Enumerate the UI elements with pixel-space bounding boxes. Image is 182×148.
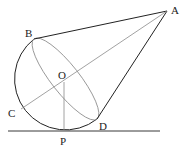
segment-AD: [97, 11, 167, 119]
label-P: P: [60, 135, 66, 147]
segment-AC: [21, 11, 167, 109]
cone-diagram: A B O C D P: [0, 0, 182, 148]
label-C: C: [8, 107, 15, 119]
label-A: A: [171, 4, 179, 16]
label-D: D: [99, 120, 107, 132]
segment-AB: [34, 11, 167, 39]
label-O: O: [58, 69, 66, 81]
label-B: B: [25, 27, 32, 39]
